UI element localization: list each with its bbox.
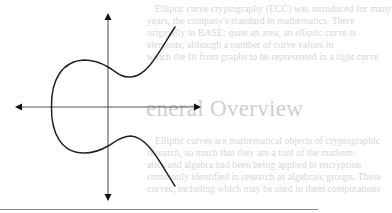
x-axis-right-arrow-icon [194,104,201,111]
elliptic-curve-upper [51,27,175,107]
elliptic-curve-lower [51,107,175,186]
x-axis-left-arrow-icon [15,104,22,111]
y-axis-up-arrow-icon [105,13,112,20]
y-axis-down-arrow-icon [105,194,112,201]
page-divider [0,209,318,210]
